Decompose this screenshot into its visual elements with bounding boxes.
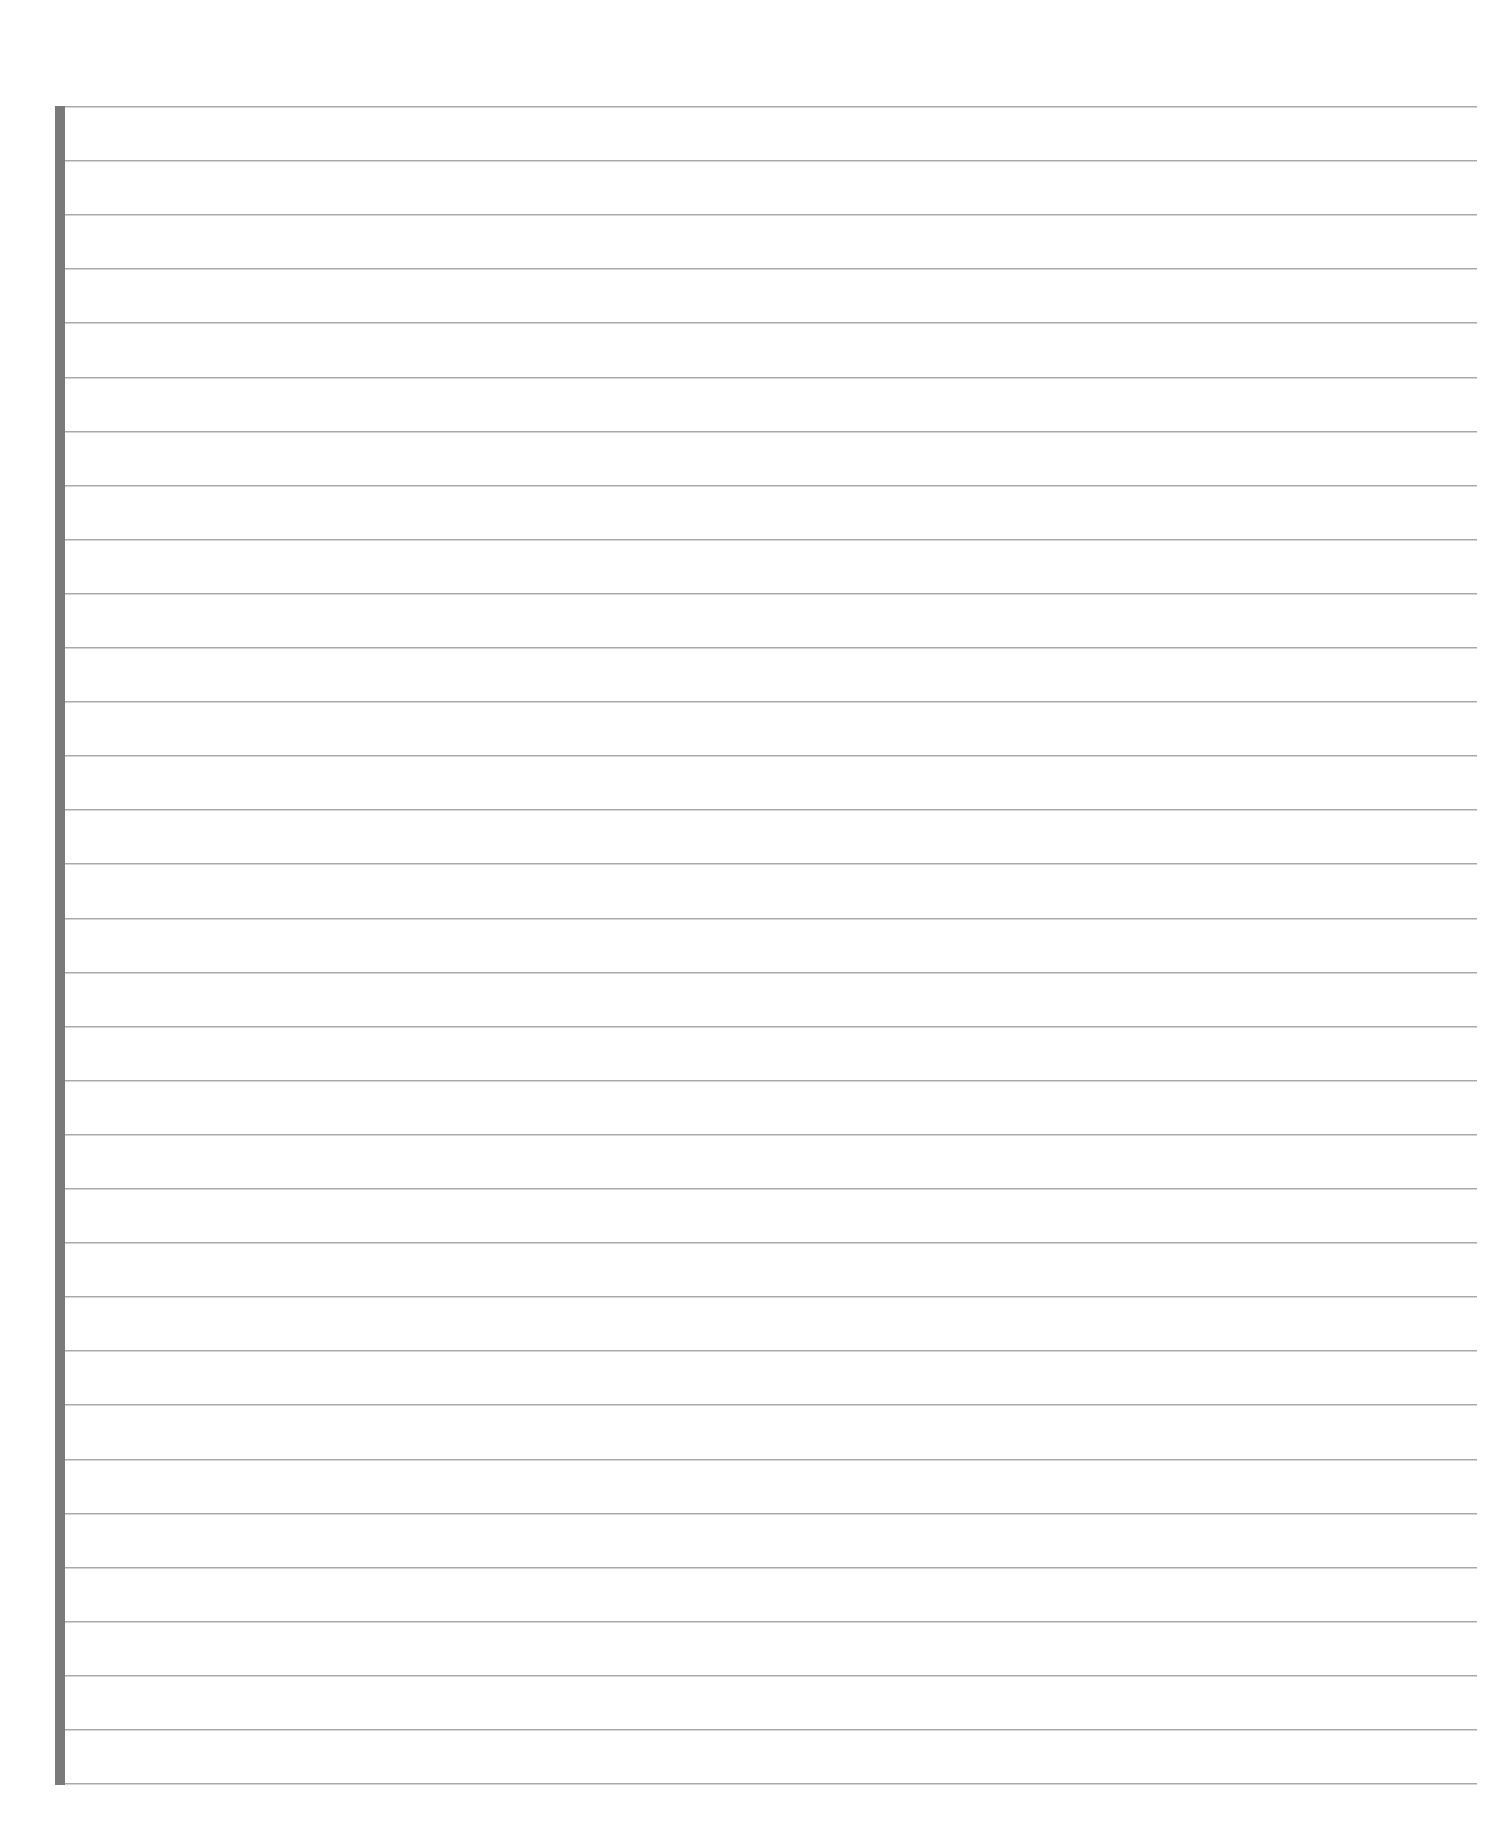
ruled-line [65, 1459, 1477, 1461]
ruled-line [65, 863, 1477, 865]
ruled-line [65, 377, 1477, 379]
ruled-line [65, 1350, 1477, 1352]
ruled-line [65, 809, 1477, 811]
ruled-line [65, 214, 1477, 216]
ruled-line [65, 755, 1477, 757]
ruled-line [65, 539, 1477, 541]
ruled-line [65, 1134, 1477, 1136]
ruled-line [65, 972, 1477, 974]
ruled-line [65, 1080, 1477, 1082]
ruled-line [65, 160, 1477, 162]
ruled-line [65, 1188, 1477, 1190]
ruled-line [65, 918, 1477, 920]
lined-paper-sheet [0, 0, 1485, 1840]
ruled-line [65, 1675, 1477, 1677]
ruled-line [65, 106, 1477, 108]
ruled-line [65, 1404, 1477, 1406]
ruled-line [65, 268, 1477, 270]
ruled-line [65, 1296, 1477, 1298]
ruled-line [65, 431, 1477, 433]
ruled-line [65, 1513, 1477, 1515]
ruled-line [65, 1783, 1477, 1785]
ruled-line [65, 647, 1477, 649]
ruled-line [65, 593, 1477, 595]
ruled-line [65, 1567, 1477, 1569]
ruled-line [65, 1621, 1477, 1623]
left-margin-bar [55, 106, 65, 1785]
ruled-line [65, 1242, 1477, 1244]
ruled-line [65, 701, 1477, 703]
ruled-line [65, 1729, 1477, 1731]
ruled-line [65, 1026, 1477, 1028]
ruled-line [65, 485, 1477, 487]
ruled-line [65, 322, 1477, 324]
